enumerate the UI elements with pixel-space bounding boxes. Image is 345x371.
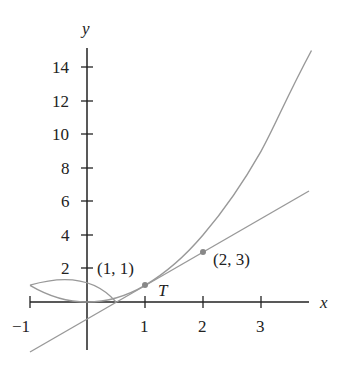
x-axis-label: x <box>319 293 328 312</box>
x-tick-label: 2 <box>198 317 207 336</box>
y-tick-label: 12 <box>52 92 69 111</box>
parabola-curve <box>30 51 312 303</box>
point-2-3 <box>200 249 206 255</box>
tangent-label: T <box>158 281 169 300</box>
y-tick-label: 8 <box>61 159 70 178</box>
y-tick-label: 2 <box>61 259 70 278</box>
point-label-2-3: (2, 3) <box>213 250 250 269</box>
y-tick-label: 4 <box>61 226 70 245</box>
y-axis-label: y <box>80 19 90 38</box>
x-tick-label: 3 <box>256 317 265 336</box>
tangent-line <box>30 191 309 352</box>
y-tick-label: 6 <box>61 192 70 211</box>
chart: −1 1 2 3 2 4 6 8 10 12 14 x y (1, 1) (2,… <box>0 0 345 371</box>
y-tick-label: 14 <box>52 58 70 77</box>
point-label-1-1: (1, 1) <box>97 259 134 278</box>
x-tick-label: −1 <box>12 317 30 336</box>
x-tick-label: 1 <box>140 317 149 336</box>
point-1-1 <box>142 282 148 288</box>
y-tick-label: 10 <box>52 125 69 144</box>
